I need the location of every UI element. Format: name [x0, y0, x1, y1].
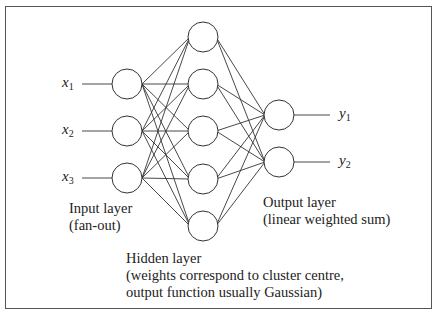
- input-node-1: [112, 69, 142, 99]
- input-node-3: [112, 163, 142, 193]
- hidden-node-3: [188, 116, 218, 146]
- input-node-2: [112, 116, 142, 146]
- output-layer-title: Output layer: [263, 194, 336, 211]
- input-layer-title: Input layer: [69, 200, 132, 217]
- hidden-node-2: [188, 69, 218, 99]
- input-label-x2: x2: [62, 121, 74, 142]
- input-label-x3: x3: [62, 168, 74, 189]
- output-label-y2: y2: [339, 152, 351, 173]
- hidden-layer-desc-2: output function usually Gaussian): [126, 284, 322, 301]
- output-label-y1: y1: [339, 105, 351, 126]
- input-label-x1: x1: [62, 74, 74, 95]
- hidden-node-5: [188, 211, 218, 241]
- hidden-layer-desc-1: (weights correspond to cluster centre,: [126, 267, 344, 284]
- output-node-2: [264, 147, 294, 177]
- hidden-node-4: [188, 164, 218, 194]
- output-node-1: [264, 100, 294, 130]
- output-layer-desc: (linear weighted sum): [263, 211, 390, 228]
- hidden-node-1: [188, 22, 218, 52]
- input-layer-desc: (fan-out): [69, 217, 121, 234]
- hidden-layer-title: Hidden layer: [126, 250, 201, 267]
